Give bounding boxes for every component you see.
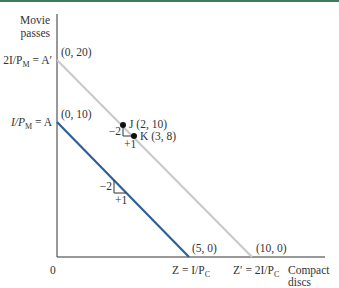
rise-upper: −2 (109, 125, 121, 137)
k-label: K (3, 8) (140, 130, 176, 143)
run-upper: +1 (124, 138, 136, 150)
coord-5-0: (5, 0) (192, 242, 217, 255)
run-lower: +1 (115, 194, 127, 206)
y-axis-label-line2: passes (21, 27, 51, 40)
coord-10-0: (10, 0) (256, 242, 287, 255)
budget-constraint-diagram: Movie passes 2I/PM = A′ (0, 20) I/PM = A… (0, 0, 339, 288)
coord-0-20: (0, 20) (61, 46, 92, 59)
z-prime-label: Z′ = 2I/PC (233, 264, 279, 279)
x-axis-label-line2: discs (288, 276, 312, 288)
y-axis-label-line1: Movie (20, 14, 50, 26)
a-prime-label: 2I/PM = A′ (3, 54, 52, 69)
z-label: Z = I/PC (172, 264, 210, 279)
a-label: I/PM = A (10, 116, 53, 131)
budget-line-2i (57, 60, 252, 257)
coord-0-10: (0, 10) (61, 108, 92, 121)
rise-lower: −2 (100, 180, 112, 192)
origin-label: 0 (50, 264, 56, 276)
budget-line-i (57, 122, 189, 257)
